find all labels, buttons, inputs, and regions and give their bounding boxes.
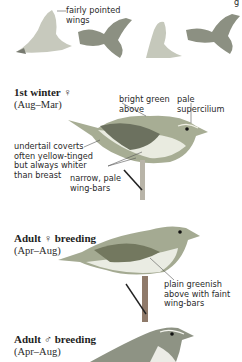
flight-bird-4-icon [186,14,240,54]
heading-adult-female-breeding: Adult ♀ breeding [14,232,96,244]
dates-1st-winter-female: (Aug–Mar) [14,99,62,111]
annotation-narrow-pale-wing-bars: narrow, pale wing-bars [70,174,121,193]
flight-bird-1-icon [16,10,72,54]
heading-1st-winter-female: 1st winter ♀ [14,86,72,98]
dates-adult-male-breeding: (Apr–Aug) [14,346,61,358]
annotation-fairly-pointed-wings: fairly pointed wings [66,6,120,25]
annotation-pale-supercilium: pale supercilium [177,95,224,114]
corner-text-fragment: g [234,0,239,8]
bird-adult-male-breeding-icon [90,328,194,362]
annotation-bright-green-above: bright green above [119,95,170,114]
dates-adult-female-breeding: (Apr–Aug) [14,245,61,257]
annotation-plain-greenish-above: plain greenish above with faint wing-bar… [164,280,230,309]
heading-adult-male-breeding: Adult ♂ breeding [14,333,96,345]
flight-bird-3-icon [146,22,182,58]
